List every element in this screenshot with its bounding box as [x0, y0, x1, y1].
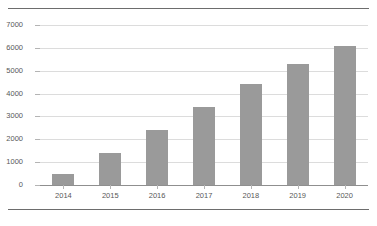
bar-2020[interactable]: [334, 46, 356, 185]
bottom-horizontal-rule: [8, 209, 369, 210]
x-tick-mark: [345, 185, 346, 189]
x-tick-mark: [110, 185, 111, 189]
x-axis: 2014201520162017201820192020: [40, 185, 368, 209]
y-axis-tick-label: 5000: [0, 67, 23, 75]
x-tick-mark: [157, 185, 158, 189]
x-axis-category-label-2020: 2020: [321, 192, 368, 200]
y-axis-tick-label: 0: [0, 181, 23, 189]
bar-2017[interactable]: [193, 107, 215, 185]
chart-figure: 01000200030004000500060007000 2014201520…: [0, 0, 377, 226]
y-axis-tick-label: 4000: [0, 90, 23, 98]
x-axis-category-label-2017: 2017: [181, 192, 228, 200]
plot-area: 01000200030004000500060007000: [40, 25, 368, 185]
x-axis-category-label-2018: 2018: [227, 192, 274, 200]
y-axis-tick-label: 2000: [0, 135, 23, 143]
y-axis-tick-label: 3000: [0, 112, 23, 120]
bar-2018[interactable]: [240, 84, 262, 185]
bar-slot: [181, 25, 228, 185]
bar-2016[interactable]: [146, 130, 168, 185]
bar-slot: [227, 25, 274, 185]
y-axis-tick-label: 7000: [0, 21, 23, 29]
bar-slot: [274, 25, 321, 185]
x-tick-mark: [251, 185, 252, 189]
bar-slot: [134, 25, 181, 185]
y-axis-tick-label: 1000: [0, 158, 23, 166]
x-axis-category-label-2014: 2014: [40, 192, 87, 200]
bar-slot: [87, 25, 134, 185]
x-axis-category-label-2019: 2019: [274, 192, 321, 200]
bar-slot: [321, 25, 368, 185]
bar-2019[interactable]: [287, 64, 309, 185]
x-tick-mark: [298, 185, 299, 189]
x-tick-mark: [63, 185, 64, 189]
bar-slot: [40, 25, 87, 185]
bar-2014[interactable]: [52, 174, 74, 185]
y-axis-tick-label: 6000: [0, 44, 23, 52]
top-horizontal-rule: [8, 8, 369, 9]
bar-2015[interactable]: [99, 153, 121, 185]
x-axis-category-label-2015: 2015: [87, 192, 134, 200]
x-axis-category-label-2016: 2016: [134, 192, 181, 200]
x-tick-mark: [204, 185, 205, 189]
